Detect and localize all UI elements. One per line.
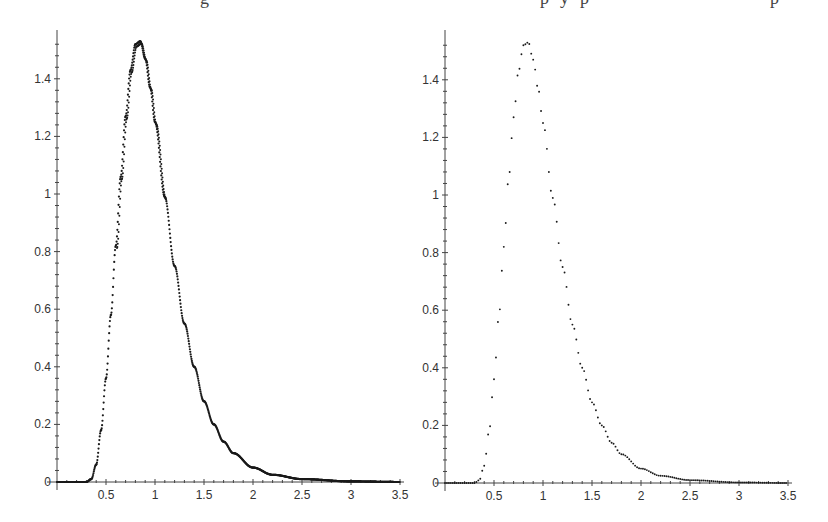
y-tick-label: 0.2: [34, 417, 51, 431]
chart-canvas: 0.511.522.533.500.20.40.60.811.21.4 0.51…: [0, 0, 828, 522]
y-tick-label: 0.4: [422, 361, 439, 375]
x-tick-label: 2: [638, 489, 645, 503]
y-tick-label: 1.4: [422, 73, 439, 87]
y-tick-label: 0.6: [34, 302, 51, 316]
y-tick-label: 1.2: [34, 129, 51, 143]
y-tick-label: 0.8: [422, 246, 439, 260]
x-tick-label: 3: [736, 489, 743, 503]
y-tick-label: 0.8: [34, 245, 51, 259]
x-tick-label: 0.5: [98, 488, 115, 502]
y-tick-label: 1.4: [34, 72, 51, 86]
x-tick-label: 0.5: [486, 489, 503, 503]
y-tick-label: 0: [44, 475, 51, 489]
x-tick-label: 1.5: [196, 488, 213, 502]
x-tick-label: 3.5: [392, 488, 409, 502]
x-tick-label: 3.5: [780, 489, 797, 503]
x-tick-label: 2.5: [682, 489, 699, 503]
x-tick-label: 3: [348, 488, 355, 502]
x-tick-label: 1.5: [584, 489, 601, 503]
y-tick-label: 0: [432, 476, 439, 490]
x-tick-label: 1: [540, 489, 547, 503]
y-tick-label: 0.6: [422, 303, 439, 317]
x-tick-label: 2.5: [294, 488, 311, 502]
y-tick-label: 1: [44, 187, 51, 201]
x-tick-label: 1: [152, 488, 159, 502]
left-plot-dense: 0.511.522.533.500.20.40.60.811.21.4: [34, 30, 408, 502]
y-tick-label: 0.4: [34, 360, 51, 374]
right-plot-sparse: 0.511.522.533.500.20.40.60.811.21.4: [422, 30, 796, 503]
y-tick-label: 1.2: [422, 130, 439, 144]
y-tick-label: 0.2: [422, 418, 439, 432]
x-tick-label: 2: [250, 488, 257, 502]
y-tick-label: 1: [432, 188, 439, 202]
